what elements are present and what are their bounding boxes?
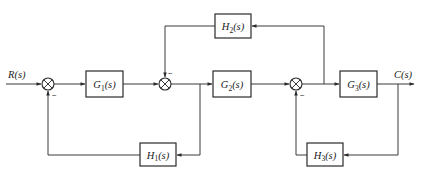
block-g2: G2(s)	[213, 71, 251, 97]
block-h1: H1(s)	[140, 143, 176, 166]
block-h3: H3(s)	[307, 143, 343, 166]
minus-sign: −	[52, 91, 57, 100]
summing-junction-s3: −	[290, 78, 305, 100]
wire-branch-to-h2	[252, 26, 324, 84]
summing-junction-s2: −	[159, 69, 173, 90]
block-g1: G1(s)	[86, 71, 123, 97]
wire-h3-to-s3	[296, 91, 307, 155]
wire-branch-to-h1	[177, 84, 200, 155]
block-h2: H2(s)	[215, 14, 251, 38]
block-diagram: −−− G1(s)G2(s)G3(s)H1(s)H2(s)H3(s) R(s) …	[0, 0, 425, 176]
summing-junction-s1: −	[42, 78, 57, 100]
block-g3: G3(s)	[340, 71, 377, 97]
wire-h1-to-s1	[48, 91, 140, 155]
transfer-blocks: G1(s)G2(s)G3(s)H1(s)H2(s)H3(s)	[86, 14, 377, 166]
minus-sign: −	[168, 69, 173, 78]
output-label: C(s)	[394, 69, 413, 81]
feedback-loop-h1	[48, 84, 200, 155]
input-label: R(s)	[7, 69, 26, 81]
minus-sign: −	[300, 91, 305, 100]
